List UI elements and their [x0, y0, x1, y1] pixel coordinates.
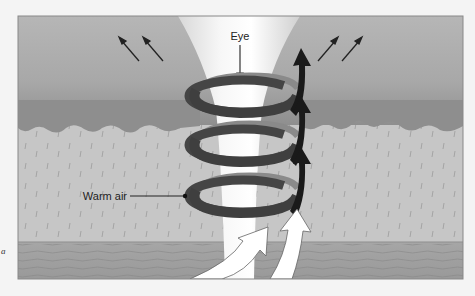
hurricane-diagram: Eye Warm air: [0, 0, 475, 296]
warm-air-label: Warm air: [83, 190, 128, 202]
side-fragment-label: a: [1, 246, 6, 256]
eye-label: Eye: [231, 30, 250, 42]
